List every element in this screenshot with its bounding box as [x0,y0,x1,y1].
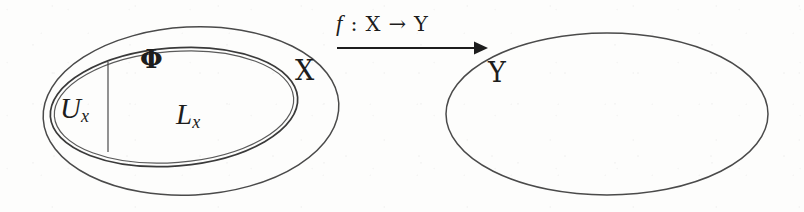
label-U-sub-x: Ux [60,94,89,125]
label-phi-point: Φ [140,46,163,72]
map-arrow-group [337,42,488,55]
label-L-base: L [176,98,192,130]
label-U-base: U [60,92,81,124]
label-domain-X: X [295,57,315,84]
map-colon: : [350,12,358,36]
map-function-name: f [336,11,343,36]
map-source: X [365,12,381,36]
label-codomain-Y: Y [488,59,506,86]
label-U-subscript: x [81,106,89,126]
map-target: Y [414,12,429,36]
label-L-sub-x: Lx [176,100,200,131]
label-map-f-x-to-y: f:X→Y [336,12,429,35]
map-arrow-glyph: → [388,12,407,36]
label-L-subscript: x [192,112,200,132]
figure-canvas: Ux Lx X Y Φ f:X→Y [0,0,804,212]
map-arrow-head-icon [474,42,488,55]
